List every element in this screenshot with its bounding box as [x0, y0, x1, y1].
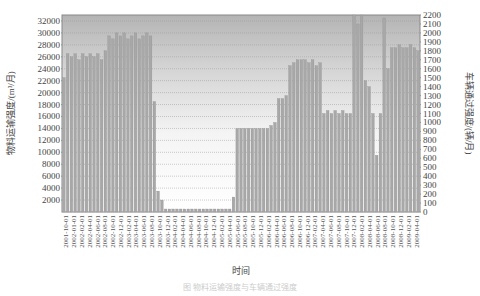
- bar: [368, 87, 371, 212]
- bar: [198, 209, 201, 212]
- x-axis: 2001-10-012002-01-012002-02-012002-04-01…: [62, 215, 420, 248]
- right-tick-label: 1000: [423, 117, 442, 127]
- bar: [145, 33, 148, 212]
- right-tick-label: 400: [423, 171, 437, 181]
- bar: [308, 63, 311, 212]
- right-tick-label: 1400: [423, 82, 442, 92]
- bar: [413, 48, 416, 212]
- bar: [281, 99, 284, 212]
- bar: [360, 15, 363, 212]
- bar: [168, 209, 171, 212]
- right-tick-label: 1100: [423, 109, 441, 119]
- right-tick-label: 1500: [423, 73, 442, 83]
- bar: [405, 48, 408, 212]
- left-tick-label: 12000: [38, 135, 61, 145]
- left-tick-label: 4000: [42, 183, 61, 193]
- bar: [176, 209, 179, 212]
- right-tick-label: 700: [423, 144, 437, 154]
- right-tick-label: 1200: [423, 100, 442, 110]
- bar: [236, 128, 239, 212]
- bar: [81, 54, 84, 212]
- x-axis-title: 时间: [232, 265, 250, 276]
- bar: [289, 66, 292, 212]
- bar: [319, 63, 322, 212]
- bar: [138, 39, 141, 212]
- bar: [334, 111, 337, 212]
- bar: [251, 128, 254, 212]
- bar: [266, 128, 269, 212]
- right-tick-label: 600: [423, 153, 437, 163]
- left-tick-label: 16000: [38, 111, 61, 121]
- bar: [63, 78, 66, 212]
- figure-caption: 图 物料运输强度与车辆通过强度: [0, 281, 480, 292]
- left-tick-label: 6000: [42, 171, 61, 181]
- right-tick-label: 2100: [423, 19, 442, 29]
- bar: [149, 36, 152, 212]
- right-axis-title: 车辆通过强度/(辆/月): [464, 72, 475, 155]
- right-tick-label: 500: [423, 162, 437, 172]
- bar: [142, 36, 145, 212]
- bar: [228, 209, 231, 212]
- bar: [130, 36, 133, 212]
- bar: [115, 33, 118, 212]
- left-tick-label: 32000: [38, 16, 61, 26]
- bar: [210, 209, 213, 212]
- left-tick-label: 8000: [42, 159, 61, 169]
- left-axis-title: 物料运输强度/(m³/月): [5, 71, 16, 155]
- left-tick-label: 20000: [38, 88, 61, 98]
- bar: [183, 209, 186, 212]
- bar: [221, 209, 224, 212]
- bar-chart: 2000400060008000100001200014000160001800…: [0, 0, 480, 296]
- x-tick-label: 2009-04-01: [413, 215, 421, 248]
- bar: [402, 48, 405, 212]
- bar: [304, 60, 307, 212]
- left-tick-label: 10000: [38, 147, 61, 157]
- bar: [112, 39, 115, 212]
- bar: [93, 57, 96, 212]
- bar: [338, 114, 341, 213]
- bar: [187, 209, 190, 212]
- bar: [398, 45, 401, 212]
- right-tick-label: 200: [423, 189, 437, 199]
- bar: [274, 122, 277, 212]
- bar: [96, 54, 99, 212]
- bar: [311, 60, 314, 212]
- right-tick-label: 300: [423, 180, 437, 190]
- bar: [100, 60, 103, 212]
- left-tick-label: 18000: [38, 100, 61, 110]
- bar: [270, 125, 273, 212]
- bar: [191, 209, 194, 212]
- right-tick-label: 0: [423, 207, 428, 217]
- left-tick-label: 24000: [38, 64, 61, 74]
- bar: [157, 191, 160, 212]
- bar: [213, 209, 216, 212]
- bar: [161, 200, 164, 212]
- bar: [255, 128, 258, 212]
- right-tick-label: 900: [423, 126, 437, 136]
- bar: [394, 48, 397, 212]
- bar: [78, 60, 81, 212]
- bar: [206, 209, 209, 212]
- left-tick-label: 26000: [38, 52, 61, 62]
- bar: [330, 114, 333, 213]
- bar: [247, 128, 250, 212]
- bar: [387, 69, 390, 212]
- right-y-axis: 0100200300400500600700800900100011001200…: [420, 10, 442, 217]
- bar: [315, 66, 318, 212]
- bar: [108, 36, 111, 212]
- bar: [345, 114, 348, 213]
- right-tick-label: 1800: [423, 46, 442, 56]
- bar: [240, 128, 243, 212]
- bar: [74, 54, 77, 212]
- bar: [379, 114, 382, 213]
- bar: [243, 128, 246, 212]
- bar: [364, 81, 367, 212]
- right-tick-label: 2000: [423, 28, 442, 38]
- right-tick-label: 1300: [423, 91, 442, 101]
- bar: [127, 39, 130, 212]
- bar: [296, 60, 299, 212]
- bar: [66, 54, 69, 212]
- bar: [323, 114, 326, 213]
- bar: [70, 57, 73, 212]
- bar: [375, 155, 378, 212]
